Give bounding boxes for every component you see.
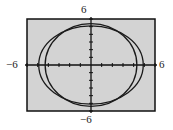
x-min-label: −6 [6,59,18,70]
graph-plot [0,0,173,130]
x-max-label: 6 [159,59,165,70]
y-min-label: −6 [80,114,92,125]
y-max-label: 6 [81,4,87,15]
